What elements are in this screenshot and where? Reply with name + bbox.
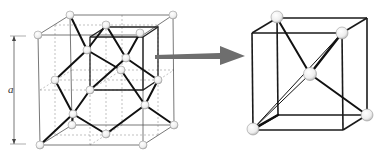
tetrahedral-subcell bbox=[247, 11, 373, 135]
diamond-unit-cell bbox=[34, 11, 178, 149]
diamond-structure-diagram bbox=[0, 0, 379, 161]
lattice-constant-label: a bbox=[8, 83, 14, 95]
zoom-arrow bbox=[155, 46, 245, 65]
